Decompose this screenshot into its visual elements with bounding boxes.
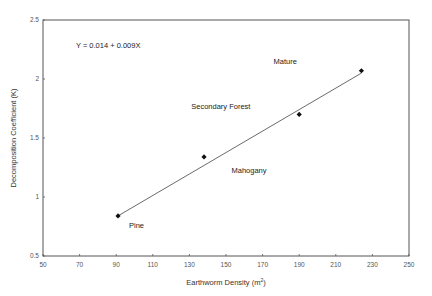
x-tick-label: 210 <box>330 261 341 268</box>
plot-border <box>43 20 409 256</box>
scatter-chart: 507090110130150170190210230250 0.511.522… <box>0 0 432 296</box>
x-tick-label: 90 <box>113 261 121 268</box>
chart-annotation: Pine <box>129 221 144 230</box>
y-tick-label: 1.5 <box>30 134 39 141</box>
regression-line <box>118 73 361 216</box>
chart-annotation: Secondary Forest <box>191 102 251 111</box>
x-tick-label: 70 <box>76 261 84 268</box>
x-axis-label: Earthworm Density (m2) <box>186 277 266 287</box>
trendline <box>118 73 361 216</box>
y-axis-label: Decomposition Coefficient (K) <box>9 88 18 188</box>
data-point-marker <box>297 112 302 117</box>
x-tick-label: 170 <box>257 261 268 268</box>
data-point-marker <box>115 213 120 218</box>
chart-annotation: Mature <box>274 57 297 66</box>
y-tick-label: 0.5 <box>30 252 39 259</box>
x-tick-label: 50 <box>39 261 47 268</box>
annotations: Y = 0.014 + 0.009XMatureSecondary Forest… <box>76 41 297 229</box>
x-tick-label: 250 <box>404 261 415 268</box>
x-tick-label: 110 <box>148 261 159 268</box>
x-tick-label: 130 <box>184 261 195 268</box>
data-point-marker <box>201 154 206 159</box>
chart-annotation: Y = 0.014 + 0.009X <box>76 41 141 50</box>
data-point-marker <box>359 68 364 73</box>
plot-area <box>43 20 409 256</box>
x-tick-label: 190 <box>294 261 305 268</box>
x-tick-label: 230 <box>367 261 378 268</box>
y-tick-label: 1 <box>35 193 39 200</box>
chart-annotation: Mahogany <box>231 166 266 175</box>
y-tick-label: 2.5 <box>30 16 39 23</box>
y-tick-label: 2 <box>35 75 39 82</box>
x-tick-label: 150 <box>221 261 232 268</box>
